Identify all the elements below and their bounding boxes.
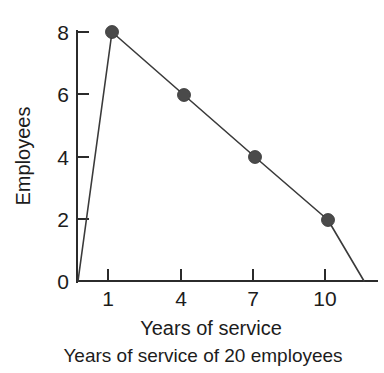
frequency-polygon-chart: 8 6 4 2 0 1 4 7 10 Employees Years of se… bbox=[0, 0, 384, 373]
data-point-marker bbox=[249, 151, 262, 164]
x-tick-label-10: 10 bbox=[313, 287, 336, 310]
y-axis-title: Employees bbox=[12, 107, 34, 206]
y-tick-label-6: 6 bbox=[57, 83, 69, 106]
data-point-marker bbox=[178, 89, 191, 102]
x-tick-label-1: 1 bbox=[102, 287, 114, 310]
y-tick-label-2: 2 bbox=[57, 208, 69, 231]
x-axis-title: Years of service bbox=[140, 317, 282, 339]
data-point-marker bbox=[106, 26, 119, 39]
figure-caption: Years of service of 20 employees bbox=[63, 345, 342, 366]
y-tick-label-0: 0 bbox=[57, 270, 69, 293]
y-tick-label-4: 4 bbox=[57, 146, 69, 169]
frequency-polygon-line bbox=[78, 32, 364, 281]
y-tick-label-8: 8 bbox=[57, 21, 69, 44]
x-tick-label-7: 7 bbox=[247, 287, 259, 310]
chart-figure: 8 6 4 2 0 1 4 7 10 Employees Years of se… bbox=[0, 0, 384, 373]
data-point-marker bbox=[322, 214, 335, 227]
x-tick-label-4: 4 bbox=[175, 287, 187, 310]
